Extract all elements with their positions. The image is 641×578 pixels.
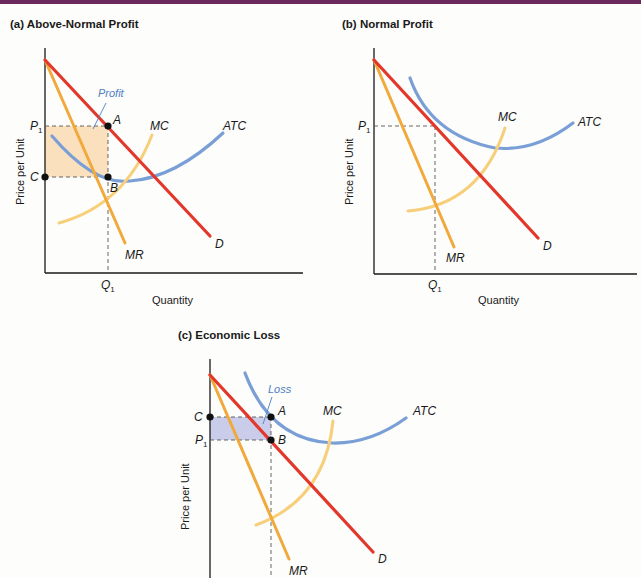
a-label: A	[112, 113, 121, 127]
mc-label: MC	[323, 404, 342, 418]
panel-c: (c) Economic Loss Loss C P1 A B MC ATC M…	[178, 329, 436, 578]
loss-label: Loss	[268, 383, 292, 395]
mr-curve	[210, 375, 289, 559]
d-label: D	[378, 552, 387, 566]
q1-label: Q1	[101, 278, 115, 294]
panel-a: (a) Above-Normal Profit Profit P1 C A B …	[10, 18, 303, 306]
panel-b-title: (b) Normal Profit	[342, 18, 433, 30]
panel-c-title: (c) Economic Loss	[178, 329, 280, 341]
b-label: B	[278, 433, 286, 447]
panel-a-title: (a) Above-Normal Profit	[10, 18, 139, 30]
point-a	[267, 413, 274, 420]
panel-b: (b) Normal Profit P1 MC ATC MR D Q1 Quan…	[342, 18, 637, 306]
c-label: C	[30, 170, 39, 184]
a-label: A	[277, 404, 286, 418]
mr-label: MR	[289, 564, 308, 578]
monopolistic-competition-figure: (a) Above-Normal Profit Profit P1 C A B …	[0, 0, 641, 578]
d-label: D	[215, 237, 224, 251]
loss-area	[210, 417, 271, 440]
atc-label: ATC	[412, 404, 436, 418]
p1-label: P1	[30, 119, 43, 135]
mr-label: MR	[446, 251, 465, 265]
c-label: C	[194, 410, 203, 424]
point-b	[104, 173, 111, 180]
point-b	[267, 436, 274, 443]
b-label: B	[110, 181, 118, 195]
y-axis-label: Price per Unit	[14, 138, 26, 205]
p1-label: P1	[195, 433, 208, 449]
point-a	[104, 122, 111, 129]
demand-curve	[210, 375, 373, 552]
x-axis-label: Quantity	[152, 294, 193, 306]
y-axis-label: Price per Unit	[343, 138, 355, 205]
mc-label: MC	[150, 119, 169, 133]
atc-label: ATC	[577, 115, 601, 129]
point-c	[206, 413, 213, 420]
atc-label: ATC	[222, 119, 246, 133]
q1-label: Q1	[428, 278, 442, 294]
atc-curve	[410, 78, 573, 148]
mc-label: MC	[498, 110, 517, 124]
point-c	[41, 173, 48, 180]
mr-label: MR	[125, 248, 144, 262]
d-label: D	[543, 239, 552, 253]
x-axis-label: Quantity	[478, 294, 519, 306]
p1-label: P1	[358, 119, 371, 135]
y-axis-label: Price per Unit	[179, 463, 191, 530]
profit-label: Profit	[98, 87, 125, 99]
mc-curve	[408, 128, 505, 211]
